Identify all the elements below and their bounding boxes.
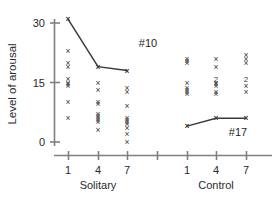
data-point-marker: × [185,89,190,99]
subject-point-marker: × [96,62,101,72]
data-point-marker: × [66,81,71,91]
y-axis-title: Level of arousal [6,43,18,124]
data-point-marker: × [96,125,101,135]
data-point-marker: × [125,137,130,147]
arousal-strip-chart: 30 15 0 Level of arousal 147147 Solitary… [0,0,279,197]
data-point-marker: × [96,85,101,95]
subject-point-marker: × [125,66,130,76]
duplicate-count-marker: 2 [244,75,249,84]
group-label-solitary: Solitary [80,179,117,191]
data-point-marker: × [96,99,101,109]
subject-label-17: #17 [229,126,247,138]
subject-point-marker: × [185,121,190,131]
x-tick-label-6: 7 [243,164,249,176]
data-point-marker: × [125,101,130,111]
y-axis: 30 15 0 Level of arousal [6,17,60,148]
x-tick-label-1: 4 [95,164,101,176]
subject-point-marker: × [214,113,219,123]
y-tick-label-15: 15 [33,77,45,89]
data-point-marker: × [244,58,249,68]
data-markers: ××××××××××××××××××××××××××××××××××××××××… [66,14,249,147]
x-axis: 147147 Solitary Control [54,151,272,191]
data-point-marker: × [214,62,219,72]
duplicate-count-marker: 2 [214,75,219,84]
y-tick-label-30: 30 [33,17,45,29]
data-point-marker: × [66,46,71,56]
data-point-marker: × [214,89,219,99]
data-point-marker: × [66,113,71,123]
y-tick-label-0: 0 [39,136,45,148]
x-tick-label-5: 4 [213,164,219,176]
x-tick-label-0: 1 [65,164,71,176]
data-point-marker: × [244,87,249,97]
x-tick-labels: 147147 [65,164,249,176]
data-point-marker: × [125,87,130,97]
subject-point-marker: × [244,113,249,123]
data-point-marker: × [66,97,71,107]
subject-label-10: #10 [139,37,157,49]
x-tick-label-4: 1 [184,164,190,176]
data-point-marker: × [185,58,190,68]
subject-point-marker: × [66,14,71,24]
group-label-control: Control [198,179,233,191]
data-point-marker: × [66,62,71,72]
x-tick-label-2: 7 [124,164,130,176]
subject-traces: ×××#10×××#17 [66,14,249,138]
